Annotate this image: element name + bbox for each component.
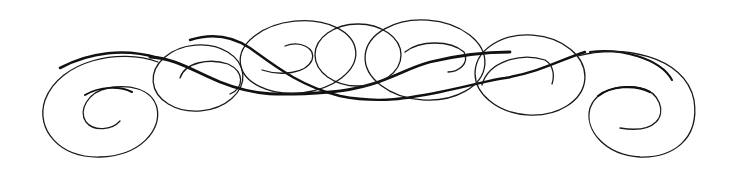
main-swash [150, 36, 672, 100]
right-loop [472, 31, 587, 118]
left-spiral [43, 53, 158, 157]
left-loop [150, 41, 245, 115]
flourish-svg [0, 0, 736, 175]
flourish-ornament: Decorative calligraphic flourish divider… [0, 0, 736, 175]
right-spiral [578, 51, 695, 157]
